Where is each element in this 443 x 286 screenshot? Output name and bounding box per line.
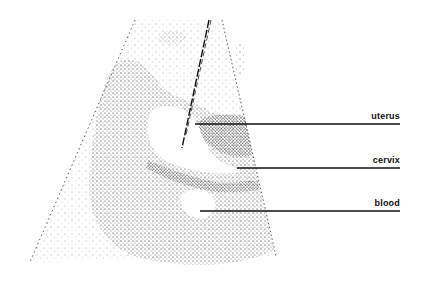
ultrasound-illustration (0, 0, 443, 286)
uterus-label: uterus (371, 111, 400, 121)
blood-label: blood (375, 198, 401, 208)
cervix-label: cervix (373, 155, 400, 165)
